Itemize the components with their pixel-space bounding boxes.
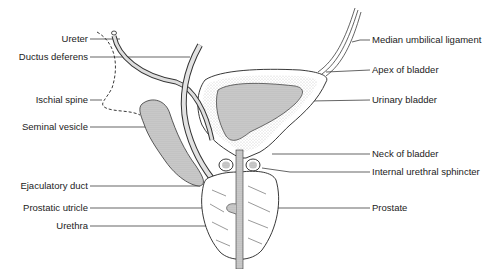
label-internal-urethral-sphincter: Internal urethral sphincter	[372, 166, 480, 177]
ureter-cut-end	[112, 31, 117, 35]
label-neck-of-bladder: Neck of bladder	[372, 148, 439, 159]
label-urethra: Urethra	[56, 220, 88, 231]
label-ischial-spine: Ischial spine	[36, 94, 88, 105]
label-ductus-deferens: Ductus deferens	[19, 51, 88, 62]
label-urinary-bladder: Urinary bladder	[372, 94, 437, 105]
label-seminal-vesicle: Seminal vesicle	[22, 121, 88, 132]
label-prostate: Prostate	[372, 202, 407, 213]
label-median-umbilical-ligament: Median umbilical ligament	[372, 34, 481, 45]
urethra	[236, 150, 243, 269]
median-umbilical-ligament	[318, 8, 361, 76]
label-ejaculatory-duct: Ejaculatory duct	[20, 180, 88, 191]
label-prostatic-utricle: Prostatic utricle	[23, 202, 88, 213]
label-ureter: Ureter	[62, 33, 88, 44]
label-apex-of-bladder: Apex of bladder	[372, 64, 439, 75]
